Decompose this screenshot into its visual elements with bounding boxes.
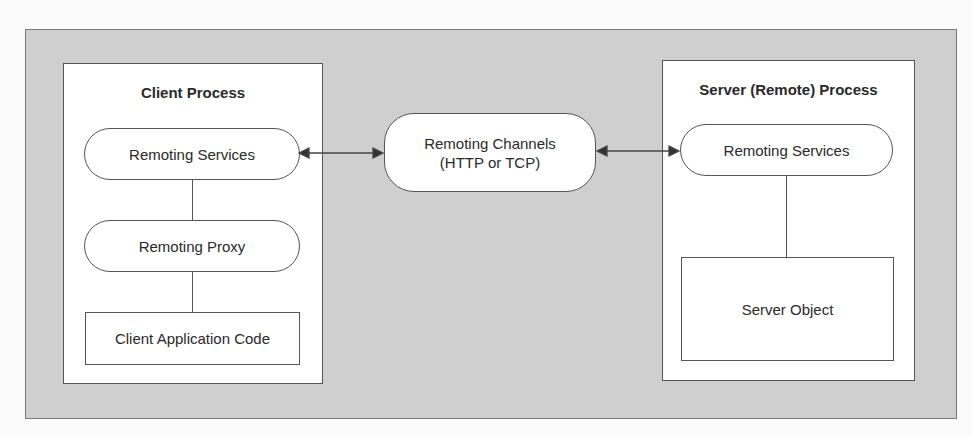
arrow-head-right-icon xyxy=(373,148,383,158)
arrow-head-right-icon xyxy=(669,146,679,156)
arrow-head-left-icon xyxy=(597,146,607,156)
bidirectional-arrows xyxy=(0,0,972,437)
arrow-head-left-icon xyxy=(299,148,309,158)
